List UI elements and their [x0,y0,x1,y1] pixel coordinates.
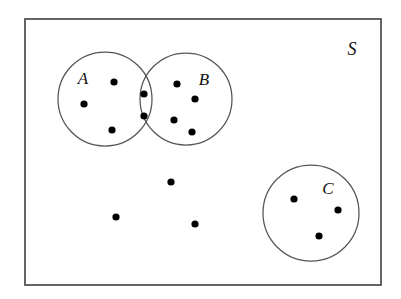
element-dot-s-only-9 [167,178,174,185]
label-set-a: A [77,69,89,88]
element-dot-c-only-13 [334,206,341,213]
element-dot-a-and-b-4 [140,112,147,119]
element-dot-a-only-1 [80,100,87,107]
element-dot-b-only-5 [173,80,180,87]
element-dot-s-only-10 [112,213,119,220]
venn-canvas: SABC [0,0,401,299]
label-set-b: B [199,70,210,89]
element-dot-c-only-14 [315,232,322,239]
element-dot-s-only-11 [191,220,198,227]
universe-boundary-rect [25,19,381,285]
label-set-c: C [322,179,334,198]
element-dot-b-only-7 [170,116,177,123]
element-dot-c-only-12 [290,195,297,202]
element-dot-b-only-6 [191,95,198,102]
venn-diagram: SABC [0,0,401,299]
element-dot-a-only-2 [108,126,115,133]
element-dot-a-and-b-3 [140,90,147,97]
element-dot-a-only-0 [110,78,117,85]
element-dot-b-only-8 [188,128,195,135]
universe-label: S [348,39,357,59]
